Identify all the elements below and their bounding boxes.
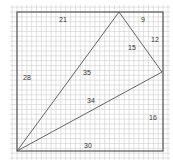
geometry-diagram [0,0,173,162]
label-top-left-segment: 21 [59,16,67,23]
label-triangle-right-side: 15 [128,44,136,51]
label-top-right-segment: 9 [141,16,145,23]
grid-lines [10,5,170,160]
label-triangle-left-side: 35 [83,69,91,76]
label-right-upper-segment: 12 [151,36,159,43]
label-right-lower-segment: 16 [149,114,157,121]
label-triangle-bottom-side: 34 [87,97,95,104]
label-bottom-side: 30 [84,142,92,149]
inner-triangle [17,12,162,151]
label-left-side: 28 [23,74,31,81]
